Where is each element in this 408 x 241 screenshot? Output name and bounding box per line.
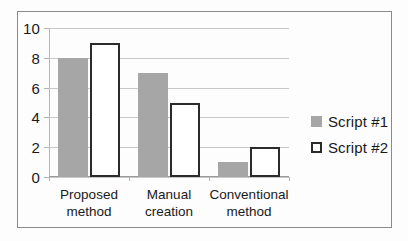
category-separator-tick (49, 177, 50, 181)
category-separator-tick (129, 177, 130, 181)
x-axis-category-label-line: Conventional (210, 186, 289, 203)
bar-script-2 (90, 43, 120, 177)
category-separator-tick (209, 177, 210, 181)
x-axis-category-label: Proposedmethod (60, 186, 118, 221)
legend-item: Script #2 (311, 134, 403, 160)
bar-script-1 (58, 58, 88, 177)
chart-legend: Script #1Script #2 (311, 108, 403, 160)
x-axis-category-label: Conventionalmethod (210, 186, 289, 221)
x-axis-category-label-line: creation (145, 203, 193, 220)
y-tick-label: 2 (31, 139, 40, 156)
bar-script-2 (250, 147, 280, 177)
y-tick-label: 4 (31, 109, 40, 126)
gridline (49, 177, 289, 178)
plot-area: 0246810 ProposedmethodManualcreationConv… (49, 28, 289, 177)
x-axis-category-label-line: Proposed (60, 186, 118, 203)
bar-group: Manualcreation (129, 28, 209, 177)
x-axis-category-label-line: method (210, 203, 289, 220)
x-axis-category-label-line: Manual (145, 186, 193, 203)
y-tick-label: 10 (23, 20, 40, 37)
legend-swatch-script-2 (311, 142, 322, 153)
x-axis-category-label: Manualcreation (145, 186, 193, 221)
bar-group: Conventionalmethod (209, 28, 289, 177)
bar-script-2 (170, 103, 200, 178)
bar-group: Proposedmethod (49, 28, 129, 177)
legend-item: Script #1 (311, 108, 403, 134)
y-tick-label: 0 (31, 169, 40, 186)
category-separator-tick (289, 177, 290, 181)
y-tick-label: 8 (31, 49, 40, 66)
chart-frame: 0246810 ProposedmethodManualcreationConv… (17, 11, 392, 228)
chart-image: 0246810 ProposedmethodManualcreationConv… (0, 0, 408, 241)
legend-swatch-script-1 (311, 116, 322, 127)
bar-script-1 (218, 162, 248, 177)
x-axis-category-label-line: method (60, 203, 118, 220)
legend-label: Script #2 (328, 139, 388, 156)
y-tick-label: 6 (31, 79, 40, 96)
bar-script-1 (138, 73, 168, 177)
legend-label: Script #1 (328, 113, 388, 130)
